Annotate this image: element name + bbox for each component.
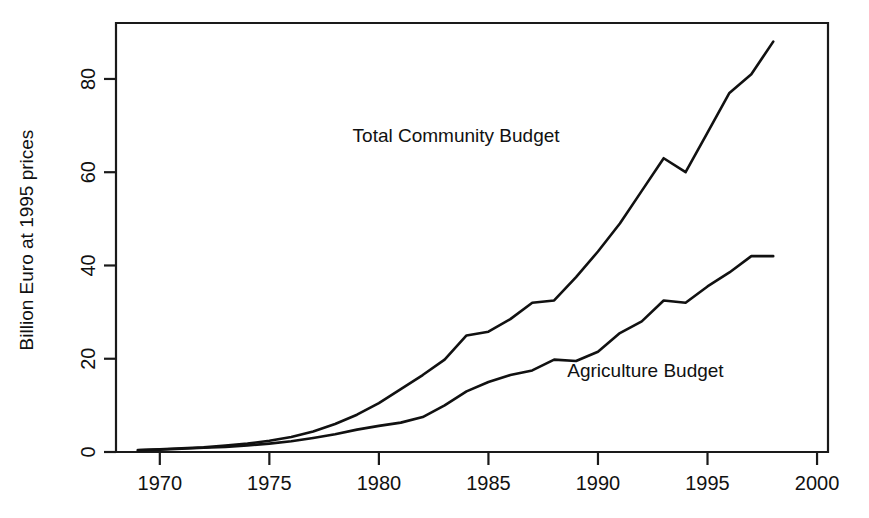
x-tick-label: 1980 xyxy=(357,472,402,494)
y-tick-label: 40 xyxy=(77,254,99,276)
series-annotation-labels: Total Community BudgetAgriculture Budget xyxy=(353,125,725,381)
series-label-1: Total Community Budget xyxy=(353,125,561,146)
y-axis-title: Billion Euro at 1995 prices xyxy=(16,130,37,351)
x-axis-ticks: 1970197519801985199019952000 xyxy=(138,452,840,494)
x-tick-label: 1995 xyxy=(685,472,730,494)
series-line-2 xyxy=(138,256,773,450)
chart-container: 020406080 1970197519801985199019952000 T… xyxy=(0,0,869,518)
y-tick-label: 80 xyxy=(77,68,99,90)
x-tick-label: 2000 xyxy=(795,472,840,494)
x-tick-label: 1985 xyxy=(466,472,511,494)
line-chart: 020406080 1970197519801985199019952000 T… xyxy=(0,0,869,518)
x-tick-label: 1990 xyxy=(576,472,621,494)
y-tick-label: 60 xyxy=(77,161,99,183)
y-tick-label: 20 xyxy=(77,348,99,370)
series-line-1 xyxy=(138,42,773,450)
data-series-group xyxy=(138,42,773,451)
x-tick-label: 1975 xyxy=(247,472,292,494)
y-axis-ticks: 020406080 xyxy=(77,68,116,458)
y-tick-label: 0 xyxy=(77,446,99,457)
x-tick-label: 1970 xyxy=(138,472,183,494)
series-label-2: Agriculture Budget xyxy=(567,360,724,381)
